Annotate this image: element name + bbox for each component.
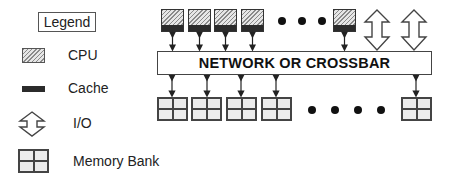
ellipsis-dot: [354, 106, 362, 114]
memory-bank: [157, 97, 188, 121]
memory-bank: [401, 97, 432, 121]
ellipsis-dot: [308, 106, 316, 114]
network-crossbar: NETWORK OR CROSSBAR: [157, 51, 432, 75]
memory-bank: [191, 97, 222, 121]
memory-bank: [261, 97, 292, 121]
ellipsis-dot: [331, 106, 339, 114]
ellipsis-dot: [377, 106, 385, 114]
connector-arrows: [0, 0, 449, 187]
memory-bank: [226, 97, 257, 121]
